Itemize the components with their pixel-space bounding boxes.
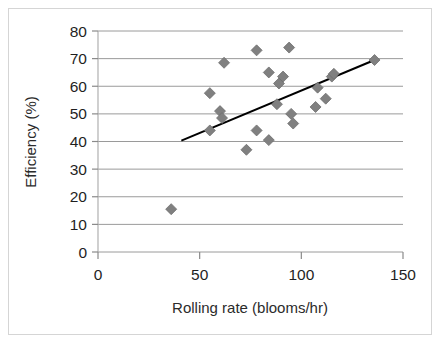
y-axis-tick-label: 20 (70, 188, 88, 205)
x-axis-tick-label: 150 (390, 266, 416, 283)
scatter-chart: 01020304050607080 050100150 Rolling rate… (0, 0, 441, 344)
x-axis-tick-label: 50 (191, 266, 209, 283)
x-axis-title: Rolling rate (blooms/hr) (172, 299, 328, 316)
y-axis-tick-label: 0 (78, 244, 87, 261)
x-axis-tick-label: 100 (288, 266, 314, 283)
y-axis-tick-label: 10 (70, 216, 88, 233)
y-axis-tick-label: 40 (70, 133, 88, 150)
y-axis-ticks (92, 31, 98, 252)
y-axis-tick-label: 60 (70, 78, 88, 95)
y-axis-tick-label: 30 (70, 161, 88, 178)
y-axis-tick-label: 70 (70, 50, 88, 67)
y-axis-tick-label: 80 (70, 23, 88, 40)
y-axis-title: Efficiency (%) (22, 96, 39, 187)
x-axis-ticks (98, 252, 403, 259)
y-axis-tick-labels: 01020304050607080 (70, 23, 88, 261)
chart-figure: 01020304050607080 050100150 Rolling rate… (0, 0, 441, 344)
x-axis-tick-labels: 050100150 (94, 266, 417, 283)
x-axis-tick-label: 0 (94, 266, 103, 283)
y-axis-tick-label: 50 (70, 105, 88, 122)
